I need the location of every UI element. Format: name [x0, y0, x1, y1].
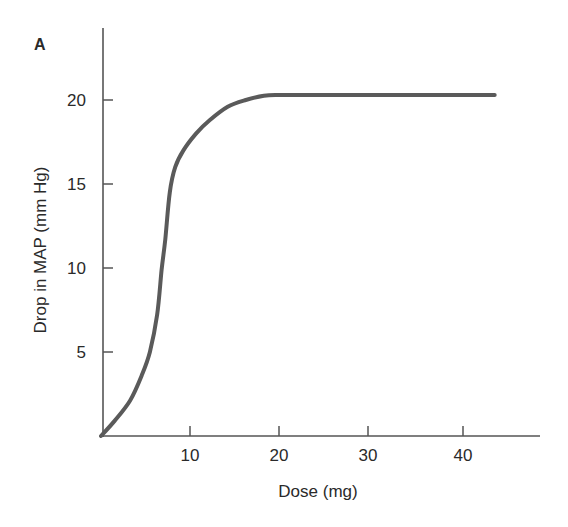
x-tick-label: 10 — [181, 446, 200, 465]
x-axis-label: Dose (mg) — [278, 482, 357, 501]
chart-canvas: A 5101520 10203040 Dose (mg) Drop in MAP… — [0, 0, 568, 527]
panel-label: A — [34, 36, 46, 53]
y-tick-label: 10 — [67, 259, 86, 278]
x-tick-label: 40 — [454, 446, 473, 465]
y-axis-label: Drop in MAP (mm Hg) — [31, 167, 50, 334]
y-tick-label: 5 — [77, 343, 86, 362]
x-tick-label: 30 — [359, 446, 378, 465]
x-ticks: 10203040 — [181, 426, 473, 465]
x-tick-label: 20 — [270, 446, 289, 465]
dose-response-curve — [101, 95, 495, 436]
y-ticks: 5101520 — [67, 91, 113, 362]
y-tick-label: 20 — [67, 91, 86, 110]
y-tick-label: 15 — [67, 175, 86, 194]
dose-response-figure: A 5101520 10203040 Dose (mg) Drop in MAP… — [0, 0, 568, 527]
